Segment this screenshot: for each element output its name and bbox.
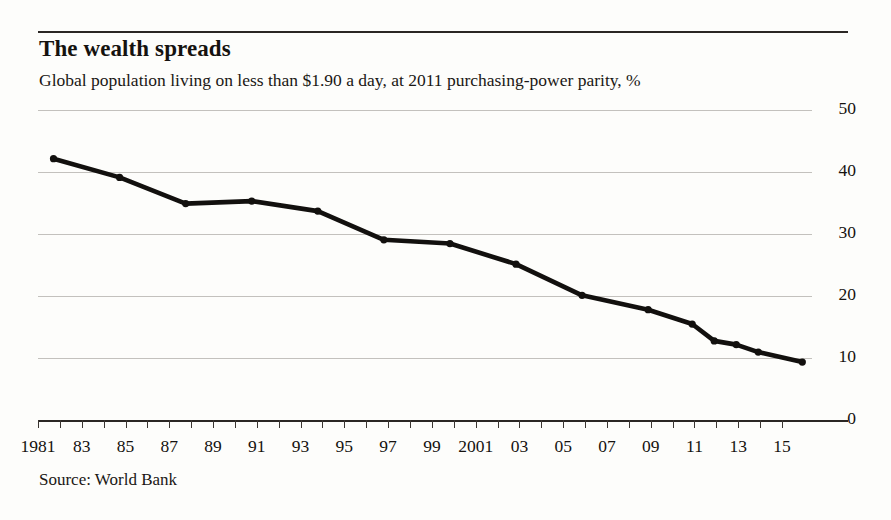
- data-point-1999: [446, 240, 453, 247]
- x-axis-label-2015: 15: [773, 436, 791, 457]
- x-axis-label-2005: 05: [554, 436, 572, 457]
- x-axis-label-1985: 85: [117, 436, 135, 457]
- x-axis-label-1993: 93: [292, 436, 310, 457]
- data-point-2012: [733, 341, 740, 348]
- data-point-2005: [578, 292, 585, 299]
- x-axis-label-2011: 11: [686, 436, 703, 457]
- chart-title: The wealth spreads: [39, 36, 231, 62]
- x-axis-label-2007: 07: [598, 436, 616, 457]
- x-axis-label-2003: 03: [511, 436, 529, 457]
- source-note: Source: World Bank: [39, 470, 177, 490]
- data-point-1996: [380, 236, 387, 243]
- series-polyline: [54, 159, 803, 362]
- x-axis-label-1997: 97: [379, 436, 397, 457]
- data-point-2002: [512, 261, 519, 268]
- x-axis-label-1995: 95: [336, 436, 354, 457]
- x-axis-label-2001: 2001: [458, 436, 493, 457]
- x-axis-label-1999: 99: [423, 436, 441, 457]
- data-point-1981: [50, 155, 57, 162]
- data-point-2010: [689, 320, 696, 327]
- x-axis-label-1987: 87: [161, 436, 179, 457]
- x-axis-label-1991: 91: [248, 436, 266, 457]
- x-axis-label-2013: 13: [729, 436, 747, 457]
- data-point-1990: [248, 197, 255, 204]
- chart-figure: The wealth spreads Global population liv…: [0, 0, 891, 520]
- x-axis-label-2009: 09: [642, 436, 660, 457]
- x-axis-label-1983: 83: [73, 436, 91, 457]
- header-rule: [38, 31, 848, 33]
- plot-area: 01020304050 1981838587899193959799200103…: [38, 110, 848, 422]
- x-axis-label-1981: 1981: [21, 436, 56, 457]
- x-axis-label-1989: 89: [204, 436, 222, 457]
- data-point-1993: [314, 207, 321, 214]
- data-point-2015: [799, 358, 806, 365]
- chart-subtitle: Global population living on less than $1…: [39, 70, 641, 91]
- data-series-line: [38, 110, 848, 422]
- data-point-1987: [182, 200, 189, 207]
- data-point-2008: [645, 306, 652, 313]
- data-point-2013: [755, 348, 762, 355]
- data-point-2011: [711, 337, 718, 344]
- data-point-1984: [116, 174, 123, 181]
